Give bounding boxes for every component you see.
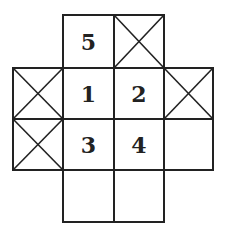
cell-number-label: 5 bbox=[81, 29, 96, 55]
grid-diagram: 51234 bbox=[0, 0, 228, 234]
grid-cell-crossed bbox=[13, 68, 63, 119]
grid-cell-crossed bbox=[13, 119, 63, 170]
grid-cell-number-2: 2 bbox=[114, 68, 164, 119]
grid-cell-number-3: 3 bbox=[63, 119, 114, 170]
cell-border bbox=[164, 119, 213, 170]
cell-number-label: 1 bbox=[81, 81, 96, 107]
cell-border bbox=[63, 170, 114, 222]
cross-icon bbox=[164, 68, 213, 119]
cross-icon bbox=[13, 119, 63, 170]
cell-border bbox=[114, 170, 164, 222]
cross-icon bbox=[114, 15, 164, 68]
grid-cell-crossed bbox=[164, 68, 213, 119]
cell-number-label: 3 bbox=[81, 132, 96, 158]
grid-cell-empty bbox=[164, 119, 213, 170]
grid-cell-number-1: 1 bbox=[63, 68, 114, 119]
grid-cell-number-5: 5 bbox=[63, 15, 114, 68]
cell-number-label: 4 bbox=[131, 132, 146, 158]
grid-cell-crossed bbox=[114, 15, 164, 68]
cross-icon bbox=[13, 68, 63, 119]
grid-cell-empty bbox=[63, 170, 114, 222]
grid-cell-number-4: 4 bbox=[114, 119, 164, 170]
cell-number-label: 2 bbox=[131, 81, 146, 107]
grid-cell-empty bbox=[114, 170, 164, 222]
